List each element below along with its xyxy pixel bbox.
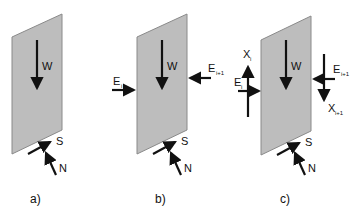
e-right-label: E [333,63,340,75]
e-right-subscript: i+1 [216,70,225,76]
normal-label: N [59,162,67,174]
weight-label: W [42,60,53,72]
panel-b: W E i E i+1 S N b) [112,14,225,206]
normal-label: N [308,162,316,174]
panel-a: W S N a) [12,14,67,206]
e-right-label: E [208,62,215,74]
weight-label: W [167,60,178,72]
slice-force-diagram: W S N a) W E i E i+1 S N b) W E i X i [0,0,356,217]
normal-arrow [171,153,181,175]
e-left-label: E [113,75,120,87]
shear-label: S [305,136,312,148]
x-right-subscript: i+1 [335,110,344,116]
e-left-subscript: i [121,83,122,89]
caption-c: c) [280,192,290,206]
x-left-subscript: i [250,56,251,62]
caption-b: b) [155,192,166,206]
panel-c: W E i X i E i+1 X i+1 S N c) [234,16,350,206]
e-left-subscript: i [241,84,242,90]
shear-label: S [56,135,63,147]
e-right-subscript: i+1 [341,71,350,77]
normal-label: N [184,162,192,174]
weight-label: W [291,60,302,72]
normal-arrow [46,153,56,175]
normal-arrow [295,153,305,175]
caption-a: a) [30,192,41,206]
shear-label: S [181,135,188,147]
